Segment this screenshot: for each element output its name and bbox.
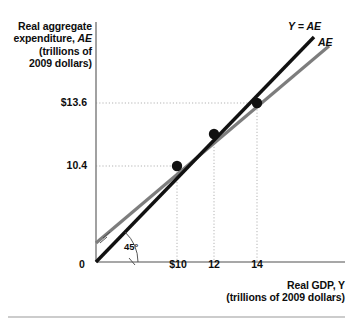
angle-annotation-45: 45° (124, 241, 138, 252)
origin-label: 0 (75, 258, 89, 270)
x-tick-label-14: 14 (242, 258, 272, 270)
y-tick-label-10-4: 10.4 (67, 159, 87, 171)
series-label-ae: AE (318, 36, 333, 48)
y-axis-title-line3: (trillions of (39, 45, 92, 57)
x-tick-label-10: $10 (162, 258, 194, 270)
y-axis-title-line2-italic: AE (78, 32, 92, 44)
data-point-10 (172, 161, 182, 171)
y-axis-title: Real aggregateexpenditure, AE(trillions … (14, 20, 92, 70)
x-tick-label-12: 12 (199, 258, 229, 270)
x-axis-title-main: Real GDP, Y (287, 279, 345, 291)
aggregate-expenditure-chart: Real aggregateexpenditure, AE(trillions … (0, 0, 353, 327)
y-equals-ae-line (96, 37, 314, 262)
x-axis-title-sub: (trillions of 2009 dollars) (226, 291, 345, 303)
y-axis-title-line2: expenditure, (14, 32, 78, 44)
ae-line (96, 46, 329, 243)
series-label-y-equals-ae: Y = AE (288, 20, 321, 32)
x-axis-title: Real GDP, Y(trillions of 2009 dollars) (196, 279, 345, 304)
data-point-14 (252, 98, 262, 108)
y-tick-label-13-6: $13.6 (61, 96, 87, 108)
y-axis-title-line1: Real aggregate (18, 20, 92, 32)
data-points (172, 98, 262, 171)
data-point-12 (209, 129, 219, 139)
y-axis-title-line4: 2009 dollars) (29, 57, 92, 69)
